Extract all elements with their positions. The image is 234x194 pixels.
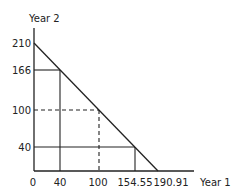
y-tick-210: 210 xyxy=(12,38,31,49)
y-tick-100: 100 xyxy=(12,105,31,116)
y-tick-40: 40 xyxy=(18,142,31,153)
x-axis-title: Year 1 xyxy=(199,177,231,188)
x-tick-190: 190.91 xyxy=(154,177,189,188)
x-tick-0: 0 xyxy=(30,177,36,188)
x-tick-100: 100 xyxy=(88,177,107,188)
x-tick-40: 40 xyxy=(54,177,67,188)
y-axis-title: Year 2 xyxy=(28,13,60,24)
budget-line xyxy=(34,43,158,171)
chart: Year 2 Year 1 210 166 100 40 0 40 100 15… xyxy=(0,0,234,194)
y-tick-166: 166 xyxy=(12,65,31,76)
x-tick-154: 154.55 xyxy=(118,177,153,188)
